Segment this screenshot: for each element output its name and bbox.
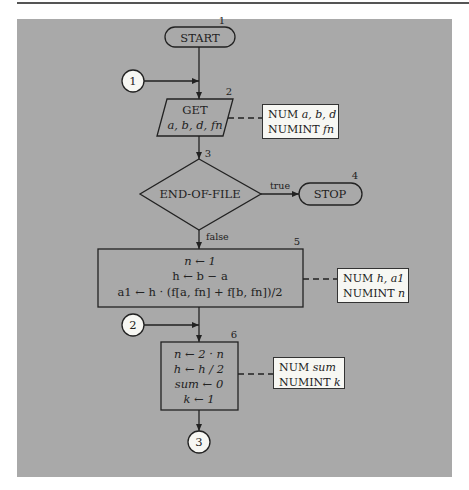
step-number-3: 3 bbox=[205, 148, 211, 159]
connector-1-label: 1 bbox=[129, 74, 136, 88]
variable-list: k bbox=[334, 376, 341, 389]
variable-list: a, b, d bbox=[302, 108, 337, 121]
annotation-line-2: NUMINT n bbox=[343, 286, 403, 301]
decision-label: END-OF-FILE bbox=[159, 187, 240, 201]
process-box-5: n ← 1 h ← b − a a1 ← h · (f[a, fn] + f[b… bbox=[98, 236, 303, 307]
type-keyword: NUMINT bbox=[279, 376, 330, 389]
type-keyword: NUMINT bbox=[268, 123, 319, 136]
step-number-1: 1 bbox=[219, 15, 225, 26]
annotation-line-2: NUMINT fn bbox=[268, 122, 333, 137]
process6-line-1: n ← 2 · n bbox=[174, 347, 224, 361]
stop-label: STOP bbox=[314, 187, 347, 201]
variable-list: h, a1 bbox=[377, 272, 405, 285]
true-label: true bbox=[270, 180, 290, 191]
annotation-process6-declarations: NUM sum NUMINT k bbox=[273, 357, 345, 389]
connector-2-label: 2 bbox=[129, 318, 136, 332]
annotation-get-declarations: NUM a, b, d NUMINT fn bbox=[262, 104, 339, 139]
process5-line-1: n ← 1 bbox=[184, 254, 216, 268]
connector-3-label: 3 bbox=[195, 435, 202, 449]
get-input-node: GET a, b, d, fn 2 bbox=[157, 86, 233, 136]
step-number-2: 2 bbox=[226, 86, 232, 97]
step-number-6: 6 bbox=[231, 329, 237, 340]
step-number-5: 5 bbox=[294, 236, 300, 247]
step-number-4: 4 bbox=[352, 170, 358, 181]
start-label: START bbox=[180, 31, 220, 45]
stop-terminal: STOP 4 bbox=[299, 170, 362, 205]
get-label: GET bbox=[182, 103, 208, 117]
process5-line-2: h ← b − a bbox=[172, 269, 228, 283]
connector-1: 1 bbox=[122, 70, 199, 92]
variable-list: sum bbox=[313, 361, 336, 374]
annotation-process5-declarations: NUM h, a1 NUMINT n bbox=[337, 268, 409, 303]
start-terminal: START 1 bbox=[165, 15, 235, 47]
flowchart: START 1 1 GET a, b, d, fn 2 3 END-OF-FIL… bbox=[0, 0, 469, 490]
end-of-file-decision: END-OF-FILE bbox=[140, 159, 261, 230]
process5-line-3: a1 ← h · (f[a, fn] + f[b, fn])/2 bbox=[117, 285, 282, 299]
annotation-line-1: NUM a, b, d bbox=[268, 107, 333, 122]
annotation-line-1: NUM sum bbox=[279, 360, 339, 375]
get-variables: a, b, d, fn bbox=[167, 118, 222, 132]
variable-list: fn bbox=[323, 123, 334, 136]
type-keyword: NUM bbox=[343, 272, 373, 285]
annotation-line-2: NUMINT k bbox=[279, 375, 339, 390]
annotation-line-1: NUM h, a1 bbox=[343, 271, 403, 286]
type-keyword: NUM bbox=[268, 108, 298, 121]
type-keyword: NUMINT bbox=[343, 287, 394, 300]
process6-line-3: sum ← 0 bbox=[175, 377, 223, 391]
variable-list: n bbox=[398, 287, 405, 300]
connector-3: 3 bbox=[188, 431, 210, 453]
false-label: false bbox=[206, 231, 229, 242]
type-keyword: NUM bbox=[279, 361, 309, 374]
process6-line-4: k ← 1 bbox=[183, 392, 214, 406]
connector-2: 2 bbox=[122, 314, 199, 336]
process6-line-2: h ← h / 2 bbox=[174, 362, 224, 376]
